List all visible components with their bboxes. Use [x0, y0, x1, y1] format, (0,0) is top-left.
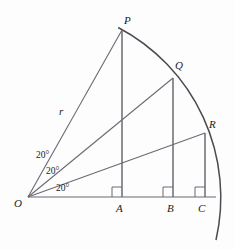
- right-angle-marker-b: [163, 187, 173, 197]
- angle-label-lower: 20°: [56, 184, 69, 194]
- ray-op: [28, 30, 122, 197]
- point-label-r: R: [209, 119, 216, 130]
- point-label-p: P: [124, 15, 131, 26]
- right-angle-marker-c: [195, 187, 205, 197]
- point-label-a: A: [116, 203, 123, 214]
- angle-label-middle: 20°: [46, 167, 59, 177]
- point-label-b: B: [167, 203, 174, 214]
- ray-oq: [28, 78, 173, 197]
- point-label-q: Q: [175, 60, 183, 71]
- radius-label-r: r: [59, 106, 63, 117]
- right-angle-marker-a: [112, 187, 122, 197]
- geometry-figure: O A B C P Q R r 20° 20° 20°: [0, 0, 235, 250]
- point-label-o: O: [14, 198, 22, 209]
- angle-label-upper: 20°: [36, 151, 49, 161]
- point-label-c: C: [198, 203, 205, 214]
